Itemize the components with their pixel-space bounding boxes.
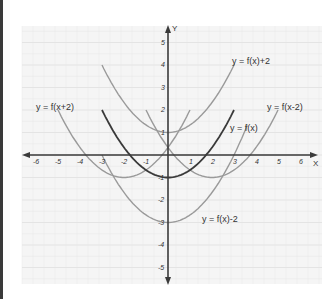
x-tick: 3	[233, 158, 237, 165]
y-tick: -2	[158, 196, 164, 203]
x-tick: -6	[33, 158, 39, 165]
y-tick: -4	[158, 241, 164, 248]
y-tick: 2	[160, 106, 165, 113]
x-tick: 6	[299, 158, 303, 165]
x-tick: -5	[55, 158, 61, 165]
y-tick: 5	[161, 39, 165, 46]
y-tick: -5	[158, 264, 164, 271]
label-f-x: y = f(x)	[230, 123, 258, 133]
y-tick: 4	[161, 61, 165, 68]
y-tick: 3	[161, 84, 165, 91]
x-tick: -1	[143, 158, 149, 165]
y-tick: -1	[158, 174, 164, 181]
y-axis-label: Y	[172, 24, 178, 33]
x-tick: -2	[121, 158, 127, 165]
chart: Y X -6 -5 -4 -3 -2 -1 1 2 3 4 5 6 5 4 3 …	[0, 0, 329, 299]
label-f-x-minus-2-shift: y = f(x-2)	[267, 102, 303, 112]
x-tick: 1	[189, 158, 193, 165]
x-tick: 4	[255, 158, 259, 165]
x-tick: 2	[210, 158, 215, 165]
x-tick: -4	[77, 158, 83, 165]
y-tick: -3	[158, 219, 164, 226]
label-f-x-minus-2: y = f(x)-2	[202, 214, 238, 224]
label-f-x-plus-2-shift: y = f(x+2)	[36, 102, 74, 112]
x-axis-label: X	[313, 159, 319, 168]
label-f-x-plus-2: y = f(x)+2	[232, 56, 270, 66]
y-tick: 1	[161, 129, 165, 136]
x-tick: 5	[277, 158, 281, 165]
x-tick: -3	[99, 158, 105, 165]
